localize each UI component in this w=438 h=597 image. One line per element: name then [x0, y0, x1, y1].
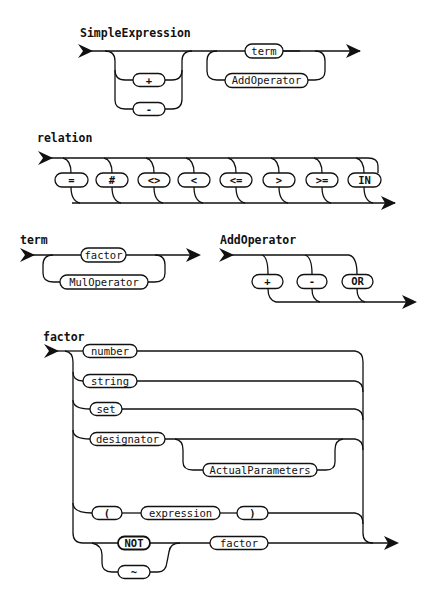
svg-text:set: set	[97, 403, 116, 415]
diagram-add-operator: AddOperator + - OR	[219, 233, 417, 309]
terminal-minus: -	[297, 275, 327, 289]
svg-text:<=: <=	[230, 174, 243, 186]
terminal-in: IN	[348, 173, 381, 187]
loop-line	[207, 51, 225, 80]
diagram-title: SimpleExpression	[80, 26, 191, 40]
diagram-simple-expression: SimpleExpression + - term AddOper	[78, 26, 361, 116]
branch-line	[73, 400, 90, 409]
branch-line	[165, 70, 182, 109]
nonterminal-mul-operator: MulOperator	[60, 275, 148, 289]
top-line	[50, 158, 378, 173]
diagram-factor: factor number	[43, 330, 399, 579]
terminal-equal: =	[55, 173, 88, 187]
diagram-title: term	[20, 233, 48, 247]
svg-text:ActualParameters: ActualParameters	[209, 464, 310, 476]
branch-line	[73, 503, 92, 513]
svg-text:(: (	[104, 507, 110, 519]
terminal-tilde: ~	[118, 566, 150, 579]
svg-text:IN: IN	[358, 174, 371, 186]
svg-text:<: <	[191, 174, 197, 186]
svg-text:~: ~	[131, 566, 137, 578]
nonterminal-factor: factor	[81, 248, 126, 262]
branch-line	[73, 372, 83, 381]
branch-line	[73, 430, 90, 439]
svg-text:-: -	[309, 275, 315, 287]
loop-line	[43, 255, 60, 282]
branch-line	[165, 51, 192, 80]
svg-text:OR: OR	[351, 275, 364, 287]
terminal-plus: +	[133, 74, 165, 87]
nonterminal-actual-parameters: ActualParameters	[203, 464, 317, 477]
line	[165, 439, 363, 450]
svg-text:AddOperator: AddOperator	[232, 74, 302, 86]
loop-line	[308, 51, 325, 80]
terminal-hash: #	[96, 173, 128, 187]
svg-text:-: -	[146, 103, 152, 115]
svg-text:=: =	[68, 174, 74, 186]
line	[268, 513, 363, 524]
svg-text:+: +	[264, 275, 270, 287]
branch-line	[115, 70, 133, 80]
svg-text:number: number	[91, 345, 129, 357]
nonterminal-add-operator: AddOperator	[225, 74, 308, 88]
svg-text:<>: <>	[148, 174, 161, 186]
nonterminal-term: term	[245, 44, 283, 58]
terminal-less-equal: <=	[220, 173, 252, 187]
branch-line	[357, 289, 365, 302]
svg-text:+: +	[146, 74, 152, 86]
terminal-close-paren: )	[237, 507, 268, 520]
svg-text:string: string	[91, 375, 129, 387]
branch-line	[262, 255, 268, 274]
nonterminal-set: set	[90, 403, 122, 416]
terminal-or: OR	[342, 275, 373, 289]
svg-text:factor: factor	[220, 537, 258, 549]
terminal-open-paren: (	[92, 507, 122, 520]
loop-line	[148, 255, 165, 282]
nonterminal-number: number	[83, 345, 137, 358]
branch-line	[150, 543, 180, 572]
branch-line	[317, 439, 343, 470]
svg-text:>: >	[276, 174, 282, 186]
diagram-term: term factor MulOperator	[20, 233, 201, 289]
left-rail	[65, 351, 83, 543]
line	[122, 409, 363, 420]
diagram-title: AddOperator	[220, 233, 296, 247]
svg-text:designator: designator	[96, 433, 159, 445]
terminal-greater-equal: >=	[306, 173, 338, 187]
svg-text:expression: expression	[149, 507, 212, 519]
svg-text:NOT: NOT	[125, 537, 144, 549]
branch-line	[175, 439, 203, 470]
bottom-line	[268, 289, 414, 302]
svg-text:MulOperator: MulOperator	[69, 276, 139, 288]
branch-line	[305, 255, 312, 274]
terminal-not: NOT	[118, 537, 150, 550]
diagram-title: relation	[37, 131, 92, 145]
diagram-relation: relation = # <>	[37, 131, 396, 210]
svg-text:): )	[249, 507, 255, 519]
branch-line	[312, 289, 320, 302]
terminal-plus: +	[252, 275, 283, 289]
nonterminal-expression: expression	[141, 507, 220, 520]
diagram-title: factor	[43, 330, 85, 344]
top-line	[231, 255, 357, 274]
svg-text:term: term	[251, 45, 276, 57]
terminal-not-equal: <>	[138, 173, 170, 187]
svg-text:#: #	[109, 174, 116, 186]
terminal-less-than: <	[178, 173, 210, 187]
line	[137, 381, 363, 392]
nonterminal-designator: designator	[90, 433, 165, 446]
nonterminal-factor: factor	[210, 537, 268, 550]
svg-text:factor: factor	[85, 249, 123, 261]
terminal-greater-than: >	[263, 173, 295, 187]
syntax-diagrams-canvas: SimpleExpression + - term AddOper	[0, 0, 438, 597]
terminal-minus: -	[133, 103, 165, 116]
nonterminal-string: string	[83, 375, 137, 388]
svg-text:>=: >=	[316, 174, 329, 186]
branch-line	[92, 543, 118, 572]
